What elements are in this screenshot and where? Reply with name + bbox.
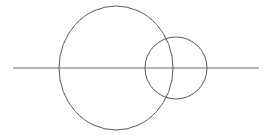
canvas-background: [0, 0, 266, 138]
figure-canvas: [0, 0, 266, 138]
figure-svg: [0, 0, 266, 138]
